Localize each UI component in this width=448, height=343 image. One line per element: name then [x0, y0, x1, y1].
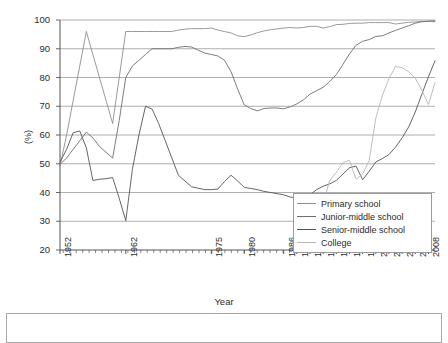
series-line-junior-middle-school [60, 21, 435, 164]
legend-line-swatch [297, 203, 316, 204]
chart-legend: Primary schoolJunior-middle schoolSenior… [293, 193, 432, 253]
x-tick-label: 2008 [432, 237, 441, 257]
x-tick-label: 1962 [130, 237, 139, 257]
gridlines-group [60, 20, 435, 221]
y-tick-marks-group [56, 20, 60, 250]
x-tick-label: 1980 [248, 237, 257, 257]
legend-item[interactable]: Senior-middle school [297, 223, 427, 236]
x-tick-label: 1952 [64, 237, 73, 257]
legend-item-label: College [321, 238, 352, 248]
legend-item[interactable]: Junior-middle school [297, 210, 427, 223]
x-tick-label: 1975 [215, 237, 224, 257]
legend-item-label: Senior-middle school [321, 225, 405, 235]
y-tick-label: 70 [20, 101, 50, 110]
caption-frame [6, 313, 442, 343]
legend-item-label: Junior-middle school [321, 212, 404, 222]
y-tick-label: 40 [20, 188, 50, 197]
series-line-primary-school [60, 21, 435, 166]
x-axis-title: Year [0, 296, 448, 307]
legend-item[interactable]: College [297, 236, 427, 249]
legend-line-swatch [297, 216, 316, 217]
legend-item[interactable]: Primary school [297, 197, 427, 210]
y-tick-label: 100 [20, 15, 50, 24]
legend-line-swatch [297, 242, 316, 243]
y-tick-label: 50 [20, 159, 50, 168]
y-tick-label: 20 [20, 245, 50, 254]
y-tick-label: 30 [20, 216, 50, 225]
legend-line-swatch [297, 229, 316, 230]
y-tick-label: 60 [20, 130, 50, 139]
chart-area: (%) 2030405060708090100 1952196219751980… [0, 0, 448, 300]
legend-item-label: Primary school [321, 199, 381, 209]
y-tick-label: 80 [20, 73, 50, 82]
y-tick-label: 90 [20, 44, 50, 53]
